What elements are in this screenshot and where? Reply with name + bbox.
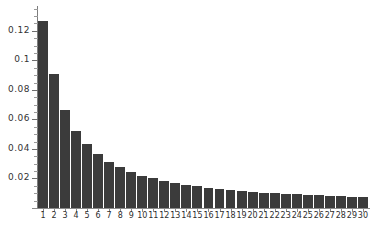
y-axis-tick-label: 0.06 bbox=[0, 113, 30, 123]
x-axis-tick-label: 3 bbox=[62, 211, 67, 220]
x-axis-tick-label: 10 bbox=[137, 211, 147, 220]
x-axis-tick-label: 26 bbox=[314, 211, 324, 220]
bar bbox=[126, 172, 136, 208]
bar bbox=[148, 178, 158, 208]
x-axis-tick-label: 12 bbox=[159, 211, 169, 220]
bar bbox=[259, 193, 269, 209]
x-axis-tick-label: 9 bbox=[129, 211, 134, 220]
bar bbox=[325, 196, 335, 208]
x-axis-tick-label: 8 bbox=[118, 211, 123, 220]
axis-origin-tick bbox=[32, 208, 37, 209]
bar bbox=[336, 196, 346, 208]
bar bbox=[82, 144, 92, 208]
y-axis-tick-label: 0.02 bbox=[0, 172, 30, 182]
bar bbox=[60, 110, 70, 208]
bar bbox=[181, 185, 191, 208]
x-axis-tick-label: 21 bbox=[259, 211, 269, 220]
bar bbox=[170, 183, 180, 208]
x-axis-tick-label: 30 bbox=[358, 211, 368, 220]
y-axis-tick-label: 0.1 bbox=[0, 54, 30, 64]
x-axis-tick-label: 7 bbox=[107, 211, 112, 220]
x-axis-tick-label: 19 bbox=[236, 211, 246, 220]
x-axis-tick-label: 27 bbox=[325, 211, 335, 220]
x-axis-tick-label: 2 bbox=[51, 211, 56, 220]
y-axis-tick-label: 0.08 bbox=[0, 84, 30, 94]
x-axis-tick-label: 23 bbox=[281, 211, 291, 220]
bar bbox=[248, 192, 258, 208]
x-axis-tick-label: 16 bbox=[203, 211, 213, 220]
bar bbox=[314, 195, 324, 208]
x-axis-tick-label: 17 bbox=[214, 211, 224, 220]
x-axis-tick-label: 14 bbox=[181, 211, 191, 220]
bar bbox=[71, 131, 81, 208]
bar bbox=[115, 167, 125, 208]
bar bbox=[347, 197, 357, 208]
bar bbox=[226, 190, 236, 208]
bar bbox=[292, 194, 302, 208]
x-axis-tick-label: 18 bbox=[225, 211, 235, 220]
y-axis-tick-label: 0.12 bbox=[0, 25, 30, 35]
bar bbox=[38, 21, 48, 208]
bar bbox=[237, 191, 247, 208]
bar bbox=[49, 74, 59, 208]
y-axis-minor-tick bbox=[34, 16, 38, 17]
bar-chart: 0.020.040.060.080.10.12 1234567891011121… bbox=[0, 0, 378, 237]
x-axis-tick-label: 25 bbox=[303, 211, 313, 220]
bar bbox=[281, 194, 291, 208]
bar bbox=[137, 176, 147, 208]
x-axis-tick-label: 15 bbox=[192, 211, 202, 220]
x-axis-tick-label: 13 bbox=[170, 211, 180, 220]
y-axis-tick-label: 0.04 bbox=[0, 143, 30, 153]
plot-area: 0.020.040.060.080.10.12 1234567891011121… bbox=[0, 0, 378, 237]
bar bbox=[159, 181, 169, 208]
bar bbox=[204, 188, 214, 208]
y-axis-minor-tick bbox=[34, 9, 38, 10]
x-axis-tick-label: 5 bbox=[85, 211, 90, 220]
bar bbox=[358, 197, 368, 208]
x-axis-tick-label: 20 bbox=[248, 211, 258, 220]
x-axis-tick-label: 28 bbox=[336, 211, 346, 220]
bar bbox=[215, 189, 225, 208]
bar bbox=[93, 154, 103, 208]
x-axis-tick-label: 24 bbox=[292, 211, 302, 220]
x-axis-tick-label: 6 bbox=[96, 211, 101, 220]
x-axis-tick-label: 1 bbox=[40, 211, 45, 220]
bar bbox=[192, 186, 202, 208]
x-axis-tick-label: 4 bbox=[74, 211, 79, 220]
x-axis-tick-label: 22 bbox=[270, 211, 280, 220]
bar bbox=[104, 162, 114, 208]
x-axis-tick-label: 11 bbox=[148, 211, 158, 220]
bar bbox=[303, 195, 313, 208]
bar bbox=[270, 193, 280, 208]
x-axis-tick-label: 29 bbox=[347, 211, 357, 220]
